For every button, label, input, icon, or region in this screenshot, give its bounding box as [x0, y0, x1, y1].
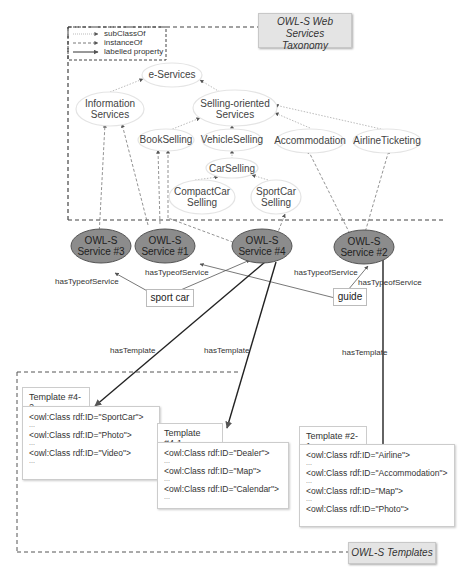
class-selling-oriented-services[interactable]: Selling-oriented Services: [193, 98, 277, 120]
class-vehicleselling[interactable]: VehicleSelling: [198, 134, 266, 145]
service-node-3[interactable]: OWL-S Service #3: [71, 235, 131, 257]
template-line: <owl:Class rdf:ID="Map">: [306, 486, 448, 496]
template-ellipsis: ...: [29, 458, 153, 466]
template-line: <owl:Class rdf:ID="Calendar">: [164, 484, 282, 494]
edge-label-has-template: hasTemplate: [342, 348, 387, 357]
edge-label-has-type-of-service: hasTypeofService: [294, 268, 358, 277]
taxonomy-title-box: OWL-S Web Services Taxonomy: [258, 13, 352, 48]
class-carselling[interactable]: CarSelling: [204, 163, 260, 174]
class-information-services[interactable]: Information Services: [76, 98, 144, 120]
taxonomy-title-line1: OWL-S Web Services: [259, 16, 351, 40]
template-ellipsis: ...: [164, 476, 282, 484]
template-ellipsis: ...: [164, 494, 282, 502]
service-node-1[interactable]: OWL-S Service #1: [135, 235, 195, 257]
legend-subclassof: subClassOf: [104, 29, 145, 38]
edge-label-has-template: hasTemplate: [204, 346, 249, 355]
class-compactcar-selling[interactable]: CompactCar Selling: [170, 186, 234, 208]
class-e-services[interactable]: e-Services: [142, 69, 202, 80]
legend-lines: [73, 34, 98, 52]
template-line: <owl:Class rdf:ID="Photo">: [29, 430, 153, 440]
template-line: <owl:Class rdf:ID="Accommodation">: [306, 468, 448, 478]
class-bookselling[interactable]: BookSelling: [134, 134, 198, 145]
service-node-4[interactable]: OWL-S Service #4: [232, 235, 292, 257]
template-ellipsis: ...: [164, 458, 282, 466]
template-ellipsis: ...: [306, 478, 448, 486]
literal-guide[interactable]: guide: [333, 288, 367, 306]
edge-label-has-template: hasTemplate: [110, 346, 155, 355]
template-ellipsis: ...: [29, 422, 153, 430]
class-sportcar-selling[interactable]: SportCar Selling: [250, 186, 302, 208]
template-ellipsis: ...: [306, 460, 448, 468]
template-2-1-body: <owl:Class rdf:ID="Airline"> ... <owl:Cl…: [299, 444, 455, 527]
template-4-1-body: <owl:Class rdf:ID="Dealer"> ... <owl:Cla…: [157, 442, 289, 509]
class-accommodation[interactable]: Accommodation: [274, 135, 346, 146]
template-line: <owl:Class rdf:ID="Dealer">: [164, 448, 282, 458]
edge-label-has-type-of-service: hasTypeofService: [55, 277, 119, 286]
class-airlineticketing[interactable]: AirlineTicketing: [351, 135, 423, 146]
legend-instanceof: instanceOf: [104, 38, 142, 47]
service-node-2[interactable]: OWL-S Service #2: [334, 236, 394, 258]
edge-label-has-type-of-service: hasTypeofService: [145, 268, 209, 277]
edge-label-has-type-of-service: hasTypeofService: [358, 278, 422, 287]
template-ellipsis: ...: [306, 496, 448, 504]
template-ellipsis: ...: [29, 440, 153, 448]
template-line: <owl:Class rdf:ID="Map">: [164, 466, 282, 476]
template-line: <owl:Class rdf:ID="Video">: [29, 448, 153, 458]
template-line: <owl:Class rdf:ID="Airline">: [306, 450, 448, 460]
literal-sport-car[interactable]: sport car: [146, 289, 194, 307]
template-line: <owl:Class rdf:ID="SportCar">: [29, 412, 153, 422]
templates-title-box: OWL-S Templates: [348, 542, 436, 564]
template-4-2-body: <owl:Class rdf:ID="SportCar"> ... <owl:C…: [22, 406, 160, 480]
legend-labelled-property: labelled property: [104, 47, 163, 56]
template-line: <owl:Class rdf:ID="Photo">: [306, 504, 448, 514]
taxonomy-title-line2: Taxonomy: [259, 40, 351, 52]
